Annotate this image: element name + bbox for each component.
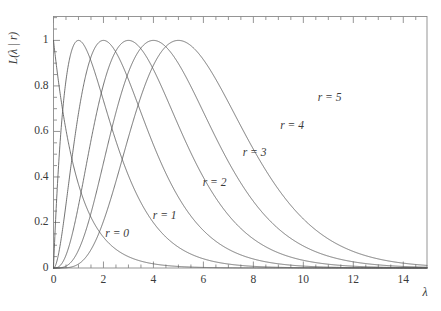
y-tick-label: 0.6 (34, 126, 48, 138)
y-tick-label: 1 (43, 35, 49, 47)
x-tick-label: 8 (250, 274, 256, 286)
y-axis-title: L(λ | r) (8, 32, 20, 64)
y-tick-label: 0.4 (34, 171, 48, 183)
x-tick-label: 2 (101, 274, 107, 286)
x-tick-label: 12 (348, 274, 360, 286)
y-tick-label: 0.2 (34, 217, 48, 229)
curve-label-r-5: r = 5 (318, 93, 342, 105)
x-tick-label: 10 (298, 274, 310, 286)
x-tick-label: 6 (201, 274, 207, 286)
curve-label-r-1: r = 1 (153, 211, 177, 223)
likelihood-chart-figure: 0246810121400.20.40.60.81 L(λ | r) λ r =… (0, 0, 441, 311)
curve-label-r-3: r = 3 (243, 147, 267, 159)
x-tick-label: 4 (151, 274, 157, 286)
x-axis-title: λ (422, 286, 427, 298)
curve-label-r-0: r = 0 (105, 229, 129, 241)
curve-label-r-2: r = 2 (203, 177, 227, 189)
plot-area (0, 0, 441, 311)
curve-label-r-4: r = 4 (280, 120, 304, 132)
x-tick-label: 14 (398, 274, 410, 286)
y-tick-label: 0 (43, 262, 49, 274)
y-tick-label: 0.8 (34, 80, 48, 92)
x-tick-label: 0 (51, 274, 57, 286)
